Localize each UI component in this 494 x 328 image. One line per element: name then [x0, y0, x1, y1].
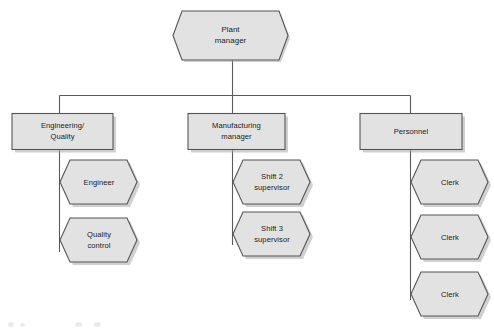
node-quality-control[interactable]: Quality control — [60, 218, 140, 265]
scan-artifact — [75, 322, 82, 327]
quality-control-label-line2: control — [87, 241, 110, 250]
org-chart-svg: Plant manager Engineering/ Quality Manuf… — [0, 0, 494, 328]
node-clerk-2[interactable]: Clerk — [411, 215, 491, 262]
clerk-1-label-line1: Clerk — [441, 178, 459, 187]
manufacturing-manager-label-line2: manager — [221, 132, 252, 141]
personnel-label-line1: Personnel — [394, 127, 429, 136]
node-plant-manager[interactable]: Plant manager — [173, 11, 290, 62]
scan-artifact — [8, 322, 14, 327]
node-shift-3-supervisor[interactable]: Shift 3 supervisor — [233, 212, 313, 259]
engineering-quality-label-line1: Engineering/ — [41, 121, 85, 130]
node-personnel[interactable]: Personnel — [360, 114, 465, 153]
node-clerk-3[interactable]: Clerk — [411, 272, 491, 319]
shift-2-supervisor-label-line2: supervisor — [254, 183, 290, 192]
node-engineering-quality[interactable]: Engineering/ Quality — [12, 114, 116, 153]
plant-manager-label-line1: Plant — [221, 25, 240, 34]
clerk-2-label-line1: Clerk — [441, 233, 459, 242]
shift-3-supervisor-label-line2: supervisor — [254, 235, 290, 244]
scan-artifact — [20, 323, 25, 327]
node-clerk-1[interactable]: Clerk — [411, 160, 491, 207]
shift-3-supervisor-label-line1: Shift 3 — [261, 224, 283, 233]
quality-control-label-line1: Quality — [87, 230, 111, 239]
engineering-quality-label-line2: Quality — [51, 132, 75, 141]
node-shift-2-supervisor[interactable]: Shift 2 supervisor — [233, 160, 313, 207]
plant-manager-label-line2: manager — [215, 36, 247, 45]
node-manufacturing-manager[interactable]: Manufacturing manager — [188, 114, 288, 153]
node-engineer[interactable]: Engineer — [60, 160, 140, 207]
scan-artifact — [94, 322, 101, 327]
engineer-label-line1: Engineer — [84, 178, 115, 187]
manufacturing-manager-label-line1: Manufacturing — [212, 121, 261, 130]
clerk-3-label-line1: Clerk — [441, 290, 459, 299]
shift-2-supervisor-label-line1: Shift 2 — [261, 172, 283, 181]
org-chart-canvas: Plant manager Engineering/ Quality Manuf… — [0, 0, 494, 328]
